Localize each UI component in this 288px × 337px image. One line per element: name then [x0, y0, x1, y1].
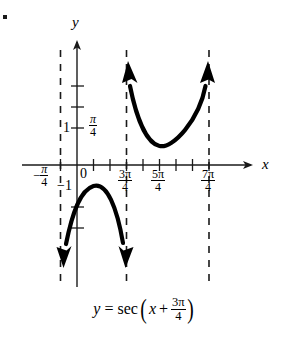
fraction-denominator: 4 — [89, 126, 97, 138]
y-tick-label-neg-one: −1 — [57, 178, 72, 194]
fraction-numerator: 5π — [151, 168, 165, 181]
caption-open-paren: ( — [140, 298, 146, 321]
annotation-pi-over-4: π 4 — [89, 113, 97, 138]
caption-fraction-3pi-over-4: 3π 4 — [171, 296, 186, 323]
origin-label: 0 — [80, 166, 87, 182]
fraction-denominator: 4 — [40, 176, 48, 188]
fraction-5pi-over-4: 5π 4 — [151, 168, 165, 193]
fraction-pi-over-4: π 4 — [89, 113, 97, 138]
caption-function-name: sec — [118, 300, 138, 318]
fraction-numerator: 7π — [201, 168, 215, 181]
caption-plus-sign: + — [159, 300, 168, 318]
x-tick-label-5pi-over-4: 5π 4 — [151, 168, 165, 193]
curve-lower-branch — [57, 186, 134, 268]
fraction-denominator: 4 — [204, 181, 212, 193]
fraction-denominator: 4 — [154, 181, 162, 193]
caption-lhs: y — [93, 300, 100, 318]
caption-argument-variable: x — [149, 300, 156, 318]
fraction-3pi-over-4: 3π 4 — [118, 168, 132, 193]
fraction-numerator: 3π — [171, 296, 186, 310]
fraction-numerator: π — [40, 163, 48, 176]
fraction-denominator: 4 — [121, 181, 129, 193]
curve-upper-branch — [122, 61, 215, 146]
x-tick-label-3pi-over-4: 3π 4 — [118, 168, 132, 193]
x-tick-label-neg-pi-over-4: − π 4 — [33, 163, 48, 188]
fraction-7pi-over-4: 7π 4 — [201, 168, 215, 193]
fraction-numerator: 3π — [118, 168, 132, 181]
caption-equation: y = sec ( x + 3π 4 ) — [0, 296, 288, 323]
fraction-denominator: 4 — [174, 310, 182, 323]
caption-equals: = — [104, 300, 113, 318]
y-axis-label: y — [72, 14, 79, 31]
fraction-numerator: π — [89, 113, 97, 126]
caption-close-paren: ) — [187, 298, 193, 321]
figure-root: y x 0 − π 4 3π 4 5π 4 7π 4 1 −1 — [0, 0, 288, 337]
fraction-neg-pi-over-4: π 4 — [40, 163, 48, 188]
minus-sign-neg-pi-over-4: − — [33, 168, 40, 184]
x-axis — [22, 161, 253, 169]
y-axis — [73, 40, 81, 287]
x-axis-label: x — [262, 156, 269, 173]
x-tick-label-7pi-over-4: 7π 4 — [201, 168, 215, 193]
y-tick-label-one: 1 — [63, 120, 70, 136]
